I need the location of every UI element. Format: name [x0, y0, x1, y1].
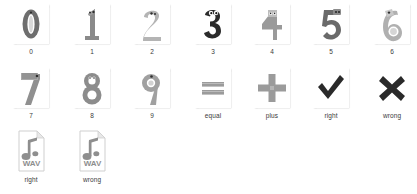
- wav-audio-file-icon[interactable]: WAV: [13, 130, 49, 172]
- grid-item-equal[interactable]: equal: [183, 68, 243, 120]
- numeral-1-character-thumbnail[interactable]: [74, 4, 110, 44]
- grid-item-7[interactable]: 7: [1, 68, 61, 120]
- grid-item-wav-right[interactable]: WAV right: [1, 130, 61, 184]
- grid-item-right-mark[interactable]: right: [301, 68, 361, 120]
- grid-item-label: 6: [390, 48, 394, 56]
- grid-item-label: plus: [266, 112, 278, 120]
- svg-text:WAV: WAV: [23, 159, 41, 168]
- grid-item-label: right: [324, 112, 337, 120]
- asset-thumbnail-grid: 0 1 2: [0, 0, 417, 194]
- numeral-9-character-thumbnail[interactable]: [134, 68, 170, 108]
- cross-mark-thumbnail[interactable]: [374, 68, 410, 108]
- grid-item-label: 7: [29, 112, 33, 120]
- grid-item-label: 4: [270, 48, 274, 56]
- grid-item-wrong-mark[interactable]: wrong: [362, 68, 417, 120]
- grid-item-label: 9: [150, 112, 154, 120]
- grid-item-9[interactable]: 9: [122, 68, 182, 120]
- grid-item-1[interactable]: 1: [62, 4, 122, 56]
- svg-text:WAV: WAV: [84, 159, 102, 168]
- grid-item-5[interactable]: 5: [301, 4, 361, 56]
- grid-item-label: 5: [329, 48, 333, 56]
- numeral-5-character-thumbnail[interactable]: [313, 4, 349, 44]
- numeral-4-character-thumbnail[interactable]: [254, 4, 290, 44]
- numeral-2-character-thumbnail[interactable]: [134, 4, 170, 44]
- grid-item-label: 8: [90, 112, 94, 120]
- wav-audio-file-icon[interactable]: WAV: [74, 130, 110, 172]
- grid-item-label: wrong: [383, 112, 401, 120]
- grid-item-label: wrong: [83, 176, 101, 184]
- numeral-3-character-thumbnail[interactable]: [195, 4, 231, 44]
- numeral-7-character-thumbnail[interactable]: [13, 68, 49, 108]
- grid-item-0[interactable]: 0: [1, 4, 61, 56]
- grid-item-label: right: [24, 176, 37, 184]
- grid-item-4[interactable]: 4: [242, 4, 302, 56]
- numeral-8-character-thumbnail[interactable]: [74, 68, 110, 108]
- equals-sign-thumbnail[interactable]: [195, 68, 231, 108]
- numeral-6-character-thumbnail[interactable]: [374, 4, 410, 44]
- grid-item-label: 0: [29, 48, 33, 56]
- grid-item-label: equal: [205, 112, 221, 120]
- grid-item-6[interactable]: 6: [362, 4, 417, 56]
- grid-item-label: 3: [211, 48, 215, 56]
- grid-item-label: 1: [90, 48, 94, 56]
- grid-item-8[interactable]: 8: [62, 68, 122, 120]
- grid-item-label: 2: [150, 48, 154, 56]
- grid-item-plus[interactable]: plus: [242, 68, 302, 120]
- grid-item-2[interactable]: 2: [122, 4, 182, 56]
- grid-item-3[interactable]: 3: [183, 4, 243, 56]
- plus-sign-thumbnail[interactable]: [254, 68, 290, 108]
- numeral-0-character-thumbnail[interactable]: [13, 4, 49, 44]
- grid-item-wav-wrong[interactable]: WAV wrong: [62, 130, 122, 184]
- checkmark-thumbnail[interactable]: [313, 68, 349, 108]
